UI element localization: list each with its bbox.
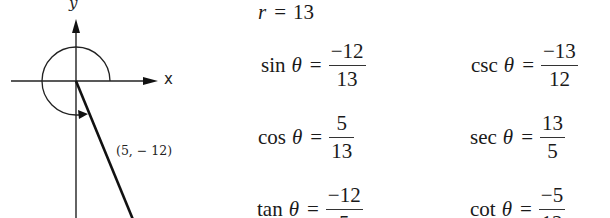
- coordinate-diagram: y x (5, − 12): [0, 0, 230, 218]
- theta-symbol: θ: [502, 199, 512, 218]
- y-axis-label: y: [69, 0, 77, 11]
- numerator: −12: [326, 184, 363, 206]
- theta-symbol: θ: [503, 127, 513, 148]
- numerator: 13: [540, 112, 565, 134]
- fraction-bar: [539, 209, 565, 210]
- function-name: cot: [470, 199, 496, 218]
- numerator: 5: [334, 112, 349, 134]
- diagram-graphic: [0, 0, 230, 218]
- x-axis-label: x: [164, 72, 173, 87]
- x-axis: [11, 77, 158, 85]
- equals-sign: =: [274, 2, 286, 23]
- function-name: sin: [261, 55, 286, 76]
- numerator: −5: [539, 184, 565, 206]
- point-label: (5, − 12): [116, 145, 172, 158]
- fraction: −12 13: [329, 40, 366, 90]
- function-name: cos: [258, 127, 286, 148]
- fraction-bar: [329, 137, 354, 138]
- denominator: 5: [337, 212, 352, 218]
- arrow-up-icon: [72, 19, 80, 33]
- fraction-bar: [326, 209, 363, 210]
- equation-r: r = 13: [258, 2, 314, 23]
- equals-sign: =: [310, 127, 322, 148]
- equals-sign: =: [521, 127, 533, 148]
- theta-symbol: θ: [292, 127, 302, 148]
- function-name: sec: [470, 127, 497, 148]
- fraction: −5 12: [539, 184, 565, 218]
- r-variable: r: [258, 2, 266, 23]
- fraction: 13 5: [540, 112, 565, 162]
- denominator: 12: [540, 212, 565, 218]
- equation-sec: sec θ = 13 5: [470, 112, 565, 162]
- equals-sign: =: [522, 55, 534, 76]
- theta-symbol: θ: [289, 199, 299, 218]
- equation-csc: csc θ = −13 12: [471, 40, 578, 90]
- theta-symbol: θ: [292, 55, 302, 76]
- denominator: 5: [545, 140, 560, 162]
- denominator: 12: [547, 68, 572, 90]
- numerator: −13: [541, 40, 578, 62]
- function-name: csc: [471, 55, 498, 76]
- function-name: tan: [257, 199, 283, 218]
- y-axis: [72, 19, 80, 218]
- fraction-bar: [540, 137, 565, 138]
- arrow-right-icon: [143, 77, 158, 85]
- fraction: −12 5: [326, 184, 363, 218]
- r-value: 13: [293, 2, 314, 23]
- equals-sign: =: [307, 199, 319, 218]
- equation-tan: tan θ = −12 5: [257, 184, 363, 218]
- fraction: 5 13: [329, 112, 354, 162]
- equals-sign: =: [520, 199, 532, 218]
- fraction-bar: [329, 65, 366, 66]
- fraction: −13 12: [541, 40, 578, 90]
- equals-sign: =: [310, 55, 322, 76]
- equation-sin: sin θ = −12 13: [261, 40, 366, 90]
- denominator: 13: [335, 68, 360, 90]
- theta-symbol: θ: [504, 55, 514, 76]
- equation-cot: cot θ = −5 12: [470, 184, 565, 218]
- equation-cos: cos θ = 5 13: [258, 112, 354, 162]
- numerator: −12: [329, 40, 366, 62]
- denominator: 13: [329, 140, 354, 162]
- fraction-bar: [541, 65, 578, 66]
